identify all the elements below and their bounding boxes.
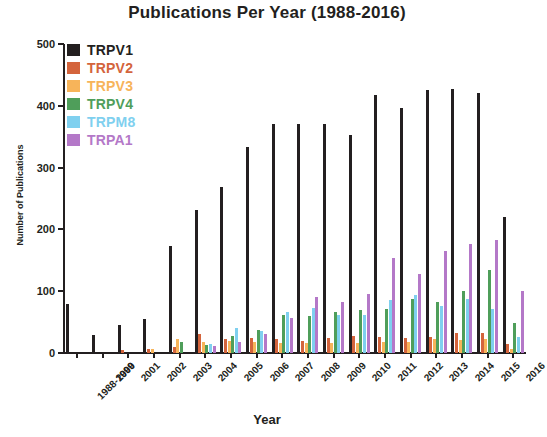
x-tick-label: 2003 [190, 360, 214, 384]
bar-trpv4-2016 [513, 323, 516, 353]
bar-trpv1-2009 [323, 124, 326, 353]
bar-group [451, 44, 472, 353]
bar-trpa1-2011 [392, 258, 395, 353]
legend-label: TRPV1 [87, 42, 133, 58]
bar-trpm8-2014 [466, 299, 469, 353]
bar-trpv2-2012 [404, 338, 407, 353]
bar-trpv1-1988-1999 [66, 304, 69, 353]
y-tick-mark [58, 43, 64, 45]
bar-trpv3-2003 [176, 339, 179, 353]
bar-trpa1-2005 [238, 342, 241, 353]
bar-trpv2-2009 [327, 338, 330, 353]
x-tick-mark [358, 353, 360, 358]
bar-group [477, 44, 498, 353]
bar-trpv4-2006 [257, 330, 260, 353]
legend-swatch-icon [67, 116, 80, 128]
bar-trpv2-2002 [147, 349, 150, 353]
legend-swatch-icon [67, 62, 80, 74]
x-axis-label: Year [0, 412, 534, 427]
bar-trpv4-2010 [359, 310, 362, 353]
x-tick-mark [230, 353, 232, 358]
x-tick-label: 2004 [216, 360, 240, 384]
legend-label: TRPV3 [87, 78, 133, 94]
x-tick-mark [410, 353, 412, 358]
bar-trpv3-2010 [356, 343, 359, 354]
bar-trpv4-2007 [282, 315, 285, 353]
chart-legend: TRPV1TRPV2TRPV3TRPV4TRPM8TRPA1 [67, 41, 135, 149]
bar-trpm8-2005 [235, 328, 238, 353]
x-tick-label: 2014 [472, 360, 496, 384]
bar-trpv2-2003 [173, 347, 176, 353]
bar-trpv3-2004 [202, 342, 205, 353]
x-tick-mark [102, 353, 104, 358]
bar-trpv3-2007 [279, 343, 282, 353]
bar-trpv4-2003 [180, 342, 183, 353]
x-tick-mark [281, 353, 283, 358]
bar-trpv4-2014 [462, 291, 465, 353]
bar-trpa1-2012 [418, 274, 421, 353]
legend-label: TRPV4 [87, 96, 133, 112]
y-tick-mark [58, 167, 64, 169]
bar-trpm8-2007 [286, 312, 289, 353]
bar-trpv3-2015 [484, 339, 487, 353]
bar-trpa1-2016 [521, 291, 524, 353]
x-tick-label: 2007 [293, 360, 317, 384]
bar-trpm8-2008 [312, 308, 315, 353]
bar-trpv1-2014 [451, 89, 454, 353]
bar-trpv4-2009 [334, 312, 337, 353]
bar-trpv3-2013 [433, 339, 436, 353]
bar-trpv1-2008 [297, 124, 300, 353]
bar-trpv1-2001 [118, 325, 121, 353]
bar-group [143, 44, 164, 353]
bar-trpv2-2001 [121, 350, 124, 353]
bar-trpv2-2016 [506, 344, 509, 353]
bar-trpv3-2006 [253, 342, 256, 353]
x-tick-label: 2011 [395, 360, 418, 383]
bar-trpv1-2007 [272, 124, 275, 353]
x-tick-label: 2006 [267, 360, 291, 384]
legend-item: TRPV2 [67, 59, 135, 77]
x-tick-mark [256, 353, 258, 358]
legend-item: TRPM8 [67, 113, 135, 131]
x-tick-label: 2013 [447, 360, 471, 384]
y-tick-label: 300 [37, 162, 55, 174]
bar-trpa1-2015 [495, 240, 498, 353]
bar-trpv3-2014 [459, 340, 462, 353]
x-tick-mark [435, 353, 437, 358]
x-tick-label: 2012 [421, 360, 445, 384]
bar-group [426, 44, 447, 353]
legend-item: TRPV3 [67, 77, 135, 95]
bar-group [349, 44, 370, 353]
legend-swatch-icon [67, 98, 80, 110]
bar-trpv1-2004 [195, 210, 198, 353]
bar-trpv2-2006 [250, 338, 253, 353]
bar-group [323, 44, 344, 353]
bar-trpv4-2013 [436, 302, 439, 353]
bar-group [246, 44, 267, 353]
bar-trpv3-2012 [407, 342, 410, 353]
bar-trpm8-2016 [517, 337, 520, 353]
bar-trpv2-2007 [275, 339, 278, 353]
x-tick-label: 2002 [164, 360, 188, 384]
y-tick-mark [58, 352, 64, 354]
x-tick-label: 2001 [139, 360, 163, 384]
bar-trpv1-2016 [503, 217, 506, 353]
x-tick-mark [461, 353, 463, 358]
bar-trpm8-2009 [337, 315, 340, 353]
bar-trpa1-2004 [213, 346, 216, 353]
legend-swatch-icon [67, 44, 80, 56]
bar-trpm8-2012 [414, 295, 417, 353]
bar-trpv3-2005 [228, 341, 231, 353]
legend-swatch-icon [67, 80, 80, 92]
bar-trpv3-2011 [382, 342, 385, 353]
x-tick-mark [204, 353, 206, 358]
bar-trpv2-2004 [198, 334, 201, 353]
bar-trpv2-2005 [224, 339, 227, 353]
bar-group [400, 44, 421, 353]
x-tick-label: 2009 [344, 360, 368, 384]
legend-label: TRPM8 [87, 114, 135, 130]
bar-trpv1-2002 [143, 319, 146, 353]
bar-trpv1-2003 [169, 246, 172, 353]
bar-trpm8-2006 [260, 331, 263, 353]
